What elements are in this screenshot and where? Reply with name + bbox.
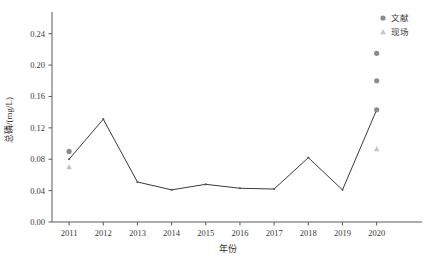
y-axis-title: 总磷/(mg/L): [3, 97, 14, 143]
line-vertex-marker: [136, 181, 138, 183]
line-vertex-marker: [239, 187, 241, 189]
y-tick-label: 0.00: [30, 217, 45, 227]
y-tick-label: 0.08: [30, 154, 45, 164]
x-tick-label: 2019: [334, 228, 351, 238]
x-axis-title: 年份: [219, 243, 237, 254]
scatter-point-circle: [66, 149, 71, 154]
line-vertex-marker: [102, 118, 104, 120]
line-vertex-marker: [171, 189, 173, 191]
x-tick-label: 2014: [163, 228, 181, 238]
y-tick-label: 0.16: [30, 91, 45, 101]
legend-marker-triangle: [380, 29, 386, 34]
scatter-point-circle: [374, 107, 379, 112]
x-tick-label: 2020: [368, 228, 385, 238]
y-tick-label: 0.24: [30, 29, 46, 39]
legend-label: 文献: [391, 13, 409, 23]
y-tick-label: 0.12: [30, 123, 45, 133]
line-vertex-marker: [273, 188, 275, 190]
legend-label: 现场: [391, 27, 409, 37]
scatter-point-circle: [374, 51, 379, 56]
line-vertex-marker: [205, 183, 207, 185]
line-vertex-marker: [307, 157, 309, 159]
line-vertex-marker: [68, 158, 70, 160]
y-tick-label: 0.20: [30, 60, 45, 70]
y-tick-label: 0.04: [30, 186, 46, 196]
x-tick-label: 2012: [95, 228, 112, 238]
legend-marker-circle: [380, 15, 385, 20]
scatter-point-triangle: [66, 164, 72, 169]
x-tick-label: 2015: [197, 228, 214, 238]
trend-line-path: [69, 110, 377, 190]
chart-container: 0.000.040.080.120.160.200.24201120122013…: [0, 0, 436, 276]
total-phosphorus-line-chart: 0.000.040.080.120.160.200.24201120122013…: [0, 0, 436, 276]
line-vertex-marker: [341, 189, 343, 191]
x-tick-label: 2016: [231, 228, 248, 238]
x-tick-label: 2011: [61, 228, 78, 238]
x-tick-label: 2013: [129, 228, 146, 238]
x-tick-label: 2017: [266, 228, 283, 238]
scatter-point-triangle: [374, 146, 380, 151]
x-tick-label: 2018: [300, 228, 317, 238]
scatter-point-circle: [374, 78, 379, 83]
